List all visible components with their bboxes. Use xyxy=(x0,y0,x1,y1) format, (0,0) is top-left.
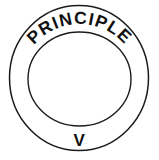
seal-top-label: PRINCIPLE xyxy=(23,8,136,48)
seal-bottom-label: V xyxy=(74,131,86,150)
seal-figure: PRINCIPLE V xyxy=(0,0,159,160)
seal-top-label-text: PRINCIPLE xyxy=(23,8,136,48)
inner-circle xyxy=(28,32,131,126)
seal-diagram: PRINCIPLE V xyxy=(0,0,159,160)
